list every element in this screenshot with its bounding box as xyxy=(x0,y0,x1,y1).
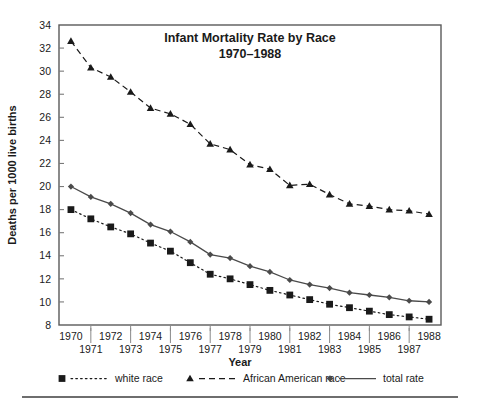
data-point-marker xyxy=(326,191,334,198)
x-tick-label-upper: 1974 xyxy=(139,330,163,342)
series-line-1 xyxy=(71,41,429,214)
data-point-marker xyxy=(346,200,354,207)
data-point-marker xyxy=(167,248,174,255)
y-tick-label: 30 xyxy=(39,65,51,77)
legend-label-2: total rate xyxy=(383,372,424,384)
data-point-marker xyxy=(426,316,433,323)
legend-marker-1 xyxy=(186,375,194,382)
data-point-marker xyxy=(167,228,173,234)
data-point-marker xyxy=(426,299,432,305)
data-point-marker xyxy=(246,161,254,168)
data-point-marker xyxy=(147,222,153,228)
data-point-marker xyxy=(87,64,95,71)
x-tick-label-upper: 1984 xyxy=(338,330,362,342)
x-tick-label-lower: 1979 xyxy=(238,343,262,355)
data-point-marker xyxy=(287,277,293,283)
data-point-marker xyxy=(187,120,195,127)
x-axis-tick-labels-lower: 197119731975197719791981198319851987 xyxy=(79,343,421,355)
y-axis-title: Deaths per 1000 live births xyxy=(6,105,18,244)
data-point-marker xyxy=(87,215,94,222)
y-tick-label: 8 xyxy=(45,319,51,331)
x-tick-label-lower: 1987 xyxy=(397,343,421,355)
y-axis-ticks xyxy=(59,48,64,302)
data-point-marker xyxy=(346,290,352,296)
x-tick-label-lower: 1985 xyxy=(358,343,382,355)
data-point-marker xyxy=(207,252,213,258)
x-tick-label-upper: 1970 xyxy=(59,330,83,342)
data-point-marker xyxy=(127,88,135,95)
data-point-marker xyxy=(67,37,75,44)
legend-marker-0 xyxy=(59,375,66,382)
y-tick-label: 10 xyxy=(39,296,51,308)
y-tick-label: 26 xyxy=(39,111,51,123)
data-point-marker xyxy=(247,281,254,288)
plot-frame xyxy=(59,25,441,325)
x-tick-label-upper: 1980 xyxy=(258,330,282,342)
series-lines xyxy=(71,41,429,319)
series-markers xyxy=(67,37,433,322)
footer-divider xyxy=(22,396,458,398)
data-point-marker xyxy=(227,255,233,261)
x-tick-label-upper: 1986 xyxy=(378,330,402,342)
data-point-marker xyxy=(108,201,114,207)
y-tick-label: 16 xyxy=(39,226,51,238)
data-point-marker xyxy=(68,206,75,213)
data-point-marker xyxy=(187,239,193,245)
data-point-marker xyxy=(286,292,293,299)
data-point-marker xyxy=(306,180,314,187)
y-tick-label: 28 xyxy=(39,88,51,100)
data-point-marker xyxy=(128,210,134,216)
x-tick-label-lower: 1983 xyxy=(318,343,342,355)
data-point-marker xyxy=(326,285,332,291)
x-tick-label-lower: 1981 xyxy=(278,343,302,355)
x-axis-title: Year xyxy=(228,356,252,368)
y-tick-label: 32 xyxy=(39,42,51,54)
y-tick-label: 22 xyxy=(39,157,51,169)
y-tick-label: 34 xyxy=(39,19,51,31)
infant-mortality-line-chart: 343230282624222018161412108 197019721974… xyxy=(0,0,478,409)
data-point-marker xyxy=(346,304,353,311)
data-point-marker xyxy=(68,183,74,189)
x-tick-label-upper: 1982 xyxy=(298,330,322,342)
x-tick-label-lower: 1971 xyxy=(79,343,103,355)
data-point-marker xyxy=(127,230,134,237)
legend-label-0: white race xyxy=(114,372,163,384)
y-tick-label: 14 xyxy=(39,249,51,261)
data-point-marker xyxy=(306,296,313,303)
y-tick-label: 18 xyxy=(39,203,51,215)
data-point-marker xyxy=(107,73,115,80)
y-axis-tick-labels: 343230282624222018161412108 xyxy=(39,19,51,331)
chart-figure: 343230282624222018161412108 197019721974… xyxy=(0,0,478,409)
chart-legend: white raceAfrican American racetotal rat… xyxy=(59,372,424,384)
data-point-marker xyxy=(386,311,393,318)
x-tick-label-upper: 1978 xyxy=(218,330,242,342)
x-tick-label-upper: 1988 xyxy=(417,330,441,342)
data-point-marker xyxy=(147,240,154,247)
data-point-marker xyxy=(366,292,372,298)
x-tick-label-lower: 1975 xyxy=(159,343,183,355)
y-tick-label: 20 xyxy=(39,180,51,192)
data-point-marker xyxy=(107,224,114,231)
y-tick-label: 24 xyxy=(39,134,51,146)
data-point-marker xyxy=(207,271,214,278)
data-point-marker xyxy=(406,314,413,321)
data-point-marker xyxy=(247,263,253,269)
chart-subtitle: 1970–1988 xyxy=(219,47,282,61)
data-point-marker xyxy=(267,269,273,275)
data-point-marker xyxy=(307,282,313,288)
data-point-marker xyxy=(326,301,333,308)
y-tick-label: 12 xyxy=(39,273,51,285)
data-point-marker xyxy=(366,308,373,315)
data-point-marker xyxy=(386,294,392,300)
chart-title: Infant Mortality Rate by Race xyxy=(164,31,336,45)
data-point-marker xyxy=(227,275,234,282)
x-tick-label-upper: 1976 xyxy=(179,330,203,342)
data-point-marker xyxy=(406,298,412,304)
data-point-marker xyxy=(187,259,194,266)
x-tick-label-lower: 1977 xyxy=(199,343,223,355)
x-tick-label-upper: 1972 xyxy=(99,330,123,342)
x-tick-label-lower: 1973 xyxy=(119,343,143,355)
data-point-marker xyxy=(88,194,94,200)
data-point-marker xyxy=(266,287,273,294)
